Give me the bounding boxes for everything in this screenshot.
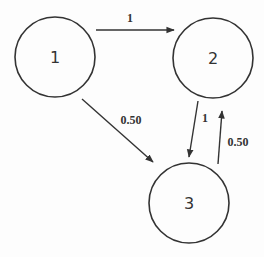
edge-3-to-2: 0.50: [218, 111, 249, 164]
graph-diagram: 1 2 3 1 0.50 1 0.50: [0, 0, 264, 257]
edge-1-to-3-label: 0.50: [121, 113, 142, 127]
edge-2-to-3-arrow: [189, 101, 198, 157]
node-3: 3: [149, 163, 229, 243]
edge-2-to-3-label: 1: [202, 111, 208, 125]
edge-1-to-2-label: 1: [127, 11, 133, 25]
node-2: 2: [173, 18, 253, 98]
edge-3-to-2-label: 0.50: [228, 135, 249, 149]
edge-1-to-3: 0.50: [82, 99, 153, 162]
graph-canvas: 1 2 3 1 0.50 1 0.50: [0, 0, 264, 257]
edge-3-to-2-arrow: [218, 111, 222, 164]
node-1-label: 1: [50, 48, 60, 67]
node-2-label: 2: [208, 49, 218, 68]
edge-1-to-3-arrow: [82, 99, 153, 162]
edge-2-to-3: 1: [189, 101, 208, 157]
node-1: 1: [15, 17, 95, 97]
node-3-label: 3: [184, 194, 194, 213]
edge-1-to-2: 1: [96, 11, 174, 30]
